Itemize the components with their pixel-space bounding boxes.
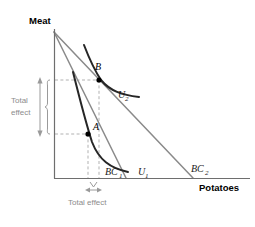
bc2-label-subscript: 2 (205, 169, 209, 177)
vertical-effect-label-line2: effect (11, 108, 31, 117)
u1-label-subscript: 1 (145, 172, 149, 180)
indifference-curve-u2 (84, 45, 139, 97)
indifference-curves (73, 45, 139, 172)
vertical-effect-label-line1: Total (11, 96, 28, 105)
indifference-curve-figure: Meat Potatoes B A U 2 U 1 BC 1 BC 2 Tota… (0, 0, 255, 227)
horizontal-effect-caret (90, 182, 97, 187)
u2-label-subscript: 2 (125, 95, 129, 103)
vertical-effect-brace (45, 80, 50, 134)
horizontal-total-effect-annotation (85, 182, 102, 192)
vertical-effect-arrow-head-down (37, 131, 42, 138)
axes (54, 29, 250, 179)
horizontal-effect-label: Total effect (68, 198, 107, 207)
diagram-canvas: Meat Potatoes B A U 2 U 1 BC 1 BC 2 Tota… (0, 0, 255, 227)
x-axis-label: Potatoes (199, 182, 239, 193)
point-a-dot (85, 131, 90, 136)
vertical-total-effect-annotation (37, 77, 50, 137)
vertical-effect-arrow-head-up (37, 77, 42, 84)
point-b-label: B (95, 61, 101, 72)
horizontal-effect-arrow-head-right (97, 188, 102, 193)
point-a-label: A (92, 121, 100, 132)
bc1-label-subscript: 1 (119, 172, 123, 180)
label-bc2: BC 2 (191, 163, 209, 177)
bc1-label-base: BC (105, 166, 118, 177)
point-b-dot (96, 77, 101, 82)
budget-line-bc1 (54, 32, 126, 178)
bc2-label-base: BC (191, 163, 204, 174)
horizontal-effect-arrow-head-left (85, 188, 90, 193)
budget-line-bc2 (54, 32, 193, 178)
budget-lines (54, 32, 193, 178)
y-axis-label: Meat (29, 15, 51, 26)
